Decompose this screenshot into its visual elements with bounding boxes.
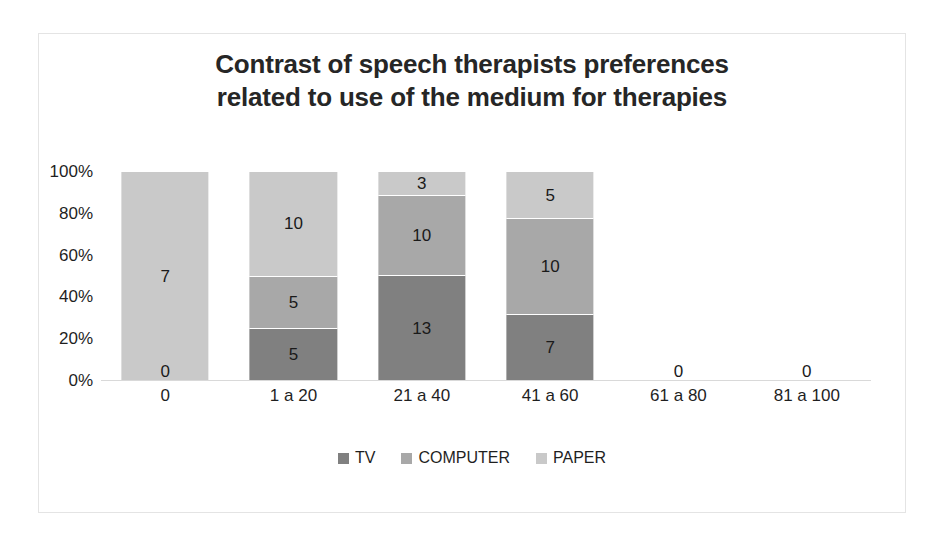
bar-slot: 5107 [486,172,614,381]
y-axis-tick: 100% [50,162,93,182]
plot-area: 100%80%60%40%20%0% 70105531013510700 01 … [101,172,871,381]
x-axis-tick: 0 [101,386,229,406]
y-axis-tick: 0% [68,371,93,391]
bar-segment[interactable]: 5 [250,329,337,381]
bar-segment[interactable]: 10 [250,172,337,277]
chart-title-line-1: Contrast of speech therapists preference… [39,48,905,81]
chart-title: Contrast of speech therapists preference… [39,48,905,115]
bar-segment[interactable]: 3 [378,172,465,196]
legend-label: PAPER [553,449,606,467]
bar-segment[interactable]: 13 [378,276,465,381]
bar-value-label: 10 [541,258,560,275]
legend-label: TV [355,449,375,467]
bar-zero-label: 0 [802,363,811,380]
bar-value-label: 5 [289,294,298,311]
stacked-bar[interactable]: 1055 [250,172,337,381]
bar-segment[interactable]: 7 [507,315,594,381]
bar-value-label: 5 [289,346,298,363]
legend-item[interactable]: COMPUTER [401,449,510,467]
y-axis-tick: 80% [59,204,93,224]
stacked-bar[interactable]: 31013 [378,172,465,381]
bar-value-label: 10 [284,215,303,232]
legend-swatch-icon [338,453,349,464]
bar-segment[interactable]: 10 [507,219,594,314]
y-axis-tick: 60% [59,246,93,266]
chart-legend: TVCOMPUTERPAPER [39,449,905,467]
bar-zero-label: 0 [160,363,169,380]
bar-slot: 31013 [358,172,486,381]
bar-value-label: 7 [160,268,169,285]
bar-slot: 0 [743,172,871,381]
y-axis-tick: 20% [59,329,93,349]
bar-segment[interactable]: 5 [250,277,337,329]
bar-slot: 1055 [229,172,357,381]
bar-value-label: 10 [412,227,431,244]
bar-segment[interactable]: 7 [122,172,209,381]
stacked-bar[interactable]: 7 [122,172,209,381]
chart-title-line-2: related to use of the medium for therapi… [39,81,905,114]
x-axis-tick: 1 a 20 [229,386,357,406]
chart-container: Contrast of speech therapists preference… [38,33,906,513]
bar-slot: 70 [101,172,229,381]
bar-group: 70105531013510700 [101,172,871,381]
bar-value-label: 13 [412,320,431,337]
legend-label: COMPUTER [418,449,510,467]
bar-value-label: 3 [417,175,426,192]
x-axis: 01 a 2021 a 4041 a 6061 a 8081 a 100 [101,386,871,406]
bar-segment[interactable]: 10 [378,196,465,276]
bar-value-label: 5 [545,187,554,204]
legend-swatch-icon [536,453,547,464]
bar-value-label: 7 [545,339,554,356]
y-axis-tick: 40% [59,287,93,307]
x-axis-tick: 81 a 100 [743,386,871,406]
x-axis-tick: 61 a 80 [614,386,742,406]
x-axis-tick: 41 a 60 [486,386,614,406]
legend-item[interactable]: PAPER [536,449,606,467]
x-axis-tick: 21 a 40 [358,386,486,406]
legend-item[interactable]: TV [338,449,375,467]
x-axis-line [101,380,871,381]
y-axis: 100%80%60%40%20%0% [39,172,97,381]
legend-swatch-icon [401,453,412,464]
bar-slot: 0 [614,172,742,381]
stacked-bar[interactable]: 5107 [507,172,594,381]
bar-segment[interactable]: 5 [507,172,594,219]
bar-zero-label: 0 [674,363,683,380]
